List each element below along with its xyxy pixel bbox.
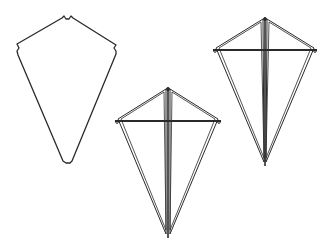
kite-framed-middle <box>115 88 221 239</box>
kite-diagram <box>0 0 334 250</box>
diagram-svg <box>0 0 334 250</box>
kite-framed-right <box>213 18 317 167</box>
kite-outline <box>17 16 116 163</box>
